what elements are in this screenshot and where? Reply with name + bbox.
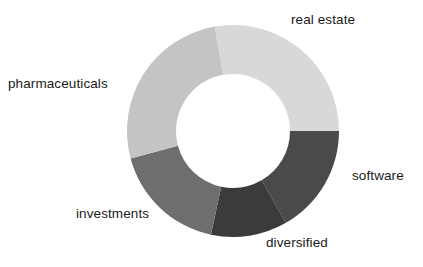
slice-label-diversified: diversified [266, 236, 328, 251]
donut-slice-pharmaceuticals[interactable] [127, 27, 223, 159]
donut-slices-group [127, 25, 339, 237]
slice-label-real-estate: real estate [291, 13, 355, 28]
donut-slice-real-estate[interactable] [215, 25, 339, 131]
slice-label-investments: investments [76, 207, 149, 222]
slice-label-pharmaceuticals: pharmaceuticals [8, 77, 108, 92]
donut-chart: real estate software diversified investm… [0, 0, 423, 267]
slice-label-software: software [352, 169, 404, 184]
donut-chart-svg [0, 0, 423, 267]
